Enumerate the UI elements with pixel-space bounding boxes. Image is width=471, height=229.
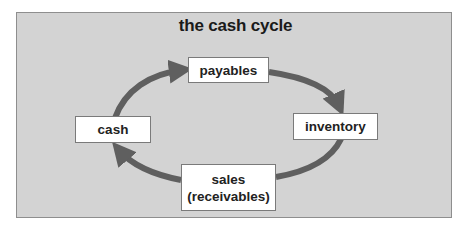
arrow-cash-to-payables <box>115 70 182 118</box>
node-cash: cash <box>75 116 151 143</box>
node-sales-label: sales <box>212 171 246 188</box>
arrow-payables-to-inventory <box>269 72 339 106</box>
node-receivables-label: (receivables) <box>187 188 270 205</box>
node-cash-label: cash <box>98 121 129 138</box>
node-inventory-label: inventory <box>305 118 366 135</box>
arrow-inventory-to-sales <box>276 139 341 177</box>
node-inventory: inventory <box>293 113 378 140</box>
node-payables-label: payables <box>200 62 258 79</box>
arrow-sales-to-cash <box>119 150 181 180</box>
node-payables: payables <box>188 57 269 83</box>
node-sales-receivables: sales (receivables) <box>181 164 276 211</box>
